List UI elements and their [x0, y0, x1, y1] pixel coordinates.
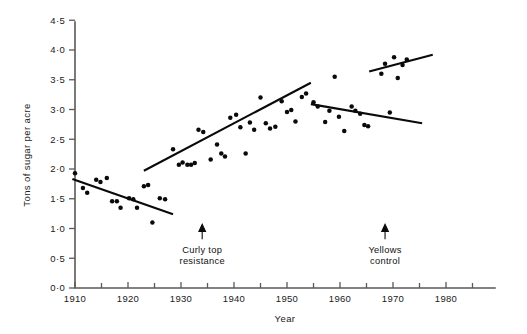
data-point [177, 163, 182, 168]
annotation-arrow-head [382, 224, 389, 231]
data-point [252, 127, 257, 132]
data-point [279, 99, 284, 104]
figure-container: 0·00·51·01·52·02·53·03·54·04·5 191019201… [0, 0, 527, 334]
data-point [219, 151, 224, 156]
data-point [285, 110, 290, 115]
data-point [215, 142, 220, 147]
data-point [300, 95, 305, 100]
data-point [273, 125, 278, 130]
x-tick-label: 1950 [276, 293, 298, 304]
annotation-label: control [370, 256, 400, 266]
data-point [379, 72, 384, 77]
y-tick-label: 4·5 [50, 15, 65, 26]
axes-group: 0·00·51·01·52·02·53·03·54·04·5 191019201… [50, 15, 495, 304]
data-point [353, 108, 358, 113]
trend-line-yellows-era-decline [311, 104, 422, 123]
annotation-label: Curly top [182, 245, 222, 255]
y-axis-title: Tons of sugar per acre [21, 103, 32, 206]
data-point [396, 76, 401, 81]
data-point [163, 197, 168, 202]
annotation-yellows-control: Yellowscontrol [368, 224, 401, 266]
y-tick-label: 2·5 [50, 134, 65, 145]
data-point [342, 129, 347, 134]
y-axis-tick-labels: 0·00·51·01·52·02·53·03·54·04·5 [50, 15, 65, 294]
data-point [115, 199, 120, 204]
data-point [85, 191, 90, 196]
data-point [110, 199, 115, 204]
data-point [146, 183, 151, 188]
data-point [349, 104, 354, 109]
data-point [248, 120, 253, 125]
data-point [208, 157, 213, 162]
y-tick-label: 3·5 [50, 74, 65, 85]
data-point [315, 104, 320, 109]
annotation-arrow-head [199, 224, 206, 231]
data-point [238, 125, 243, 130]
data-point [400, 63, 405, 68]
trend-lines-group [72, 55, 432, 214]
data-point [392, 55, 397, 60]
x-tick-label: 1970 [382, 293, 404, 304]
y-tick-label: 0·0 [50, 282, 65, 293]
data-point [264, 121, 269, 126]
data-point [258, 95, 263, 100]
data-point [405, 57, 410, 62]
data-point [304, 91, 309, 96]
y-tick-label: 3·0 [50, 104, 65, 115]
data-point [131, 197, 136, 202]
data-point [388, 110, 393, 115]
sugar-yield-scatter-chart: 0·00·51·01·52·02·53·03·54·04·5 191019201… [0, 0, 527, 334]
data-point [171, 147, 176, 152]
axis-lines [75, 22, 495, 288]
x-tick-label: 1960 [329, 293, 351, 304]
data-point [293, 119, 298, 124]
y-tick-label: 1·5 [50, 193, 65, 204]
data-point [337, 114, 342, 119]
data-point [223, 154, 228, 159]
x-axis-title: Year [275, 313, 296, 324]
data-point [358, 111, 363, 116]
data-point [193, 161, 198, 166]
y-tick-label: 0·5 [50, 253, 65, 264]
data-point [150, 220, 155, 225]
data-point [268, 126, 273, 131]
y-axis-ticks [69, 20, 75, 288]
data-point [73, 171, 78, 176]
data-point [383, 61, 388, 65]
data-point [366, 124, 371, 129]
data-point [98, 180, 103, 185]
data-point [127, 196, 132, 201]
data-point [180, 160, 185, 165]
x-tick-label: 1910 [64, 293, 86, 304]
y-tick-label: 4·0 [50, 44, 65, 55]
data-point [243, 151, 248, 156]
x-tick-label: 1980 [435, 293, 457, 304]
data-point [289, 108, 294, 113]
data-point [142, 184, 147, 189]
trend-line-post-yellows-control-rise [369, 55, 433, 72]
annotations-group: Curly topresistanceYellowscontrol [180, 224, 402, 266]
y-tick-label: 2·0 [50, 163, 65, 174]
data-point [196, 127, 201, 132]
data-point [105, 176, 110, 181]
data-point [94, 177, 99, 182]
annotation-curly-top-resistance: Curly topresistance [180, 224, 225, 266]
trend-line-pre-curly-top-decline [72, 179, 173, 214]
data-point [81, 186, 86, 191]
data-point [311, 100, 316, 105]
x-axis-ticks [75, 282, 473, 288]
data-point [118, 205, 123, 210]
data-point [327, 108, 332, 113]
annotation-label: Yellows [368, 245, 401, 255]
data-point [323, 120, 328, 125]
data-point [332, 75, 337, 80]
annotation-label: resistance [180, 256, 225, 266]
data-point [158, 196, 163, 201]
data-point [234, 113, 239, 118]
y-tick-label: 1·0 [50, 223, 65, 234]
x-tick-label: 1930 [170, 293, 192, 304]
x-axis-tick-labels: 19101920193019401950196019701980 [64, 293, 457, 304]
trend-line-curly-top-recovery-rise [144, 83, 311, 171]
data-point [201, 130, 206, 135]
data-point [228, 116, 233, 121]
